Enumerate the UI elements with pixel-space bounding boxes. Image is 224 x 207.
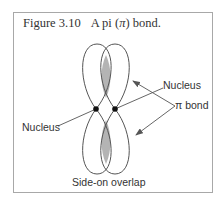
pi-bond-arrow-lower [136, 106, 175, 135]
nucleus-right-dot [112, 106, 118, 112]
nucleus-left-dot [93, 106, 99, 112]
overlap-caption: Side-on overlap [72, 176, 146, 188]
nucleus-left-label: Nucleus [22, 121, 60, 133]
nucleus-right-label: Nucleus [163, 79, 201, 91]
pi-bond-label: π bond [175, 99, 209, 111]
